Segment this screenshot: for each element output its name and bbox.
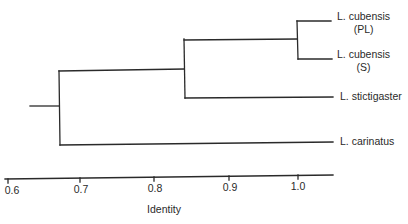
x-tick-label: 0.9 (223, 181, 238, 193)
node-100 (297, 21, 298, 59)
x-tick-label: 1.0 (291, 180, 306, 192)
x-tick-label: 0.7 (74, 183, 89, 195)
node-084 (184, 39, 185, 98)
leaf-label-line1: L. stictigaster (340, 90, 402, 103)
leaf-label-line1: L. carinatus (340, 135, 394, 148)
x-tick-label: 0.8 (148, 182, 163, 194)
root-node (59, 71, 60, 145)
branch-carinatus (60, 142, 333, 145)
branch-upper-clade (59, 69, 184, 71)
leaf-label-stictigaster: L. stictigaster (340, 90, 402, 103)
leaf-label-cubensis-s: L. cubensis (S) (337, 48, 390, 74)
x-axis-title: Identity (147, 203, 181, 215)
branch-stictigaster (185, 97, 333, 98)
x-axis-line (5, 175, 333, 179)
leaf-label-carinatus: L. carinatus (340, 135, 394, 148)
leaf-label-line1: L. cubensis (337, 10, 390, 23)
leaf-label-line2: (PL) (337, 23, 390, 36)
leaf-label-cubensis-pl: L. cubensis (PL) (337, 10, 390, 36)
leaf-label-line1: L. cubensis (337, 48, 390, 61)
x-tick-label: 0.6 (5, 184, 20, 196)
branch-cubensis-clade (184, 39, 297, 40)
leaf-label-line2: (S) (337, 61, 390, 74)
